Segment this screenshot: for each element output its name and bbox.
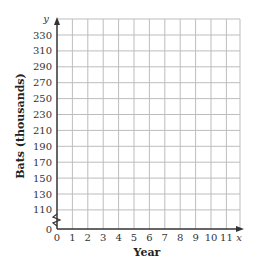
x-tick-label: 0 bbox=[54, 232, 60, 243]
x-tick-label: 1 bbox=[69, 232, 75, 243]
y-axis-arrow-icon bbox=[54, 17, 60, 25]
x-tick-label: 10 bbox=[205, 232, 218, 243]
x-tick-label: 9 bbox=[192, 232, 198, 243]
x-axis-title: Year bbox=[133, 246, 161, 259]
x-tick-label: 7 bbox=[162, 232, 168, 243]
x-tick-label: 2 bbox=[85, 232, 91, 243]
axes bbox=[53, 17, 244, 232]
x-axis-variable: x bbox=[236, 232, 242, 243]
y-tick-label: 190 bbox=[33, 141, 52, 152]
y-tick-label: 150 bbox=[33, 173, 52, 184]
y-tick-label: 310 bbox=[33, 45, 52, 56]
y-tick-label: 250 bbox=[33, 93, 52, 104]
empty-grid-chart: 0110130150170190210230250270290310330 01… bbox=[0, 0, 256, 267]
y-tick-label: 230 bbox=[33, 109, 52, 120]
y-tick-label: 110 bbox=[33, 204, 52, 215]
y-tick-label: 270 bbox=[33, 77, 52, 88]
x-tick-label: 11 bbox=[220, 232, 233, 243]
y-tick-label: 0 bbox=[46, 224, 52, 235]
y-axis-title: Bats (thousands) bbox=[14, 73, 27, 179]
y-axis-variable: y bbox=[42, 13, 49, 24]
x-tick-label: 6 bbox=[146, 232, 152, 243]
y-tick-labels: 0110130150170190210230250270290310330 bbox=[33, 30, 52, 235]
y-tick-label: 170 bbox=[33, 157, 52, 168]
x-tick-label: 8 bbox=[177, 232, 183, 243]
grid-lines bbox=[57, 19, 240, 229]
x-tick-label: 3 bbox=[100, 232, 106, 243]
x-tick-labels: 01234567891011 bbox=[54, 232, 233, 243]
y-tick-label: 210 bbox=[33, 125, 52, 136]
x-tick-label: 5 bbox=[131, 232, 137, 243]
y-tick-label: 130 bbox=[33, 189, 52, 200]
x-tick-label: 4 bbox=[115, 232, 121, 243]
y-tick-label: 290 bbox=[33, 61, 52, 72]
y-tick-label: 330 bbox=[33, 30, 52, 41]
